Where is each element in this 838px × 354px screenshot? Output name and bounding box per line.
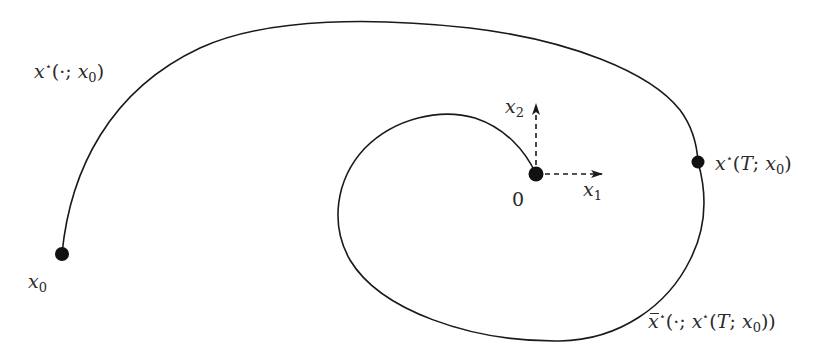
trajectory-diagram: x⋆(·; x0) x0 0 x1 x2 x⋆(T; x0) x⋆(·; x⋆(… (0, 0, 838, 354)
start-point-label: x0 (28, 272, 47, 294)
start-point-dot (55, 247, 69, 261)
x2-axis-label: x2 (505, 97, 524, 119)
continuation-trajectory-label: x⋆(·; x⋆(T; x0)) (648, 311, 776, 334)
diagram-canvas (0, 0, 838, 354)
intermediate-point-label: x⋆(T; x0) (715, 153, 792, 176)
optimal-trajectory-label: x⋆(·; x0) (34, 61, 104, 84)
optimal-trajectory-curve (62, 21, 698, 254)
x1-axis-label: x1 (583, 180, 602, 202)
continuation-trajectory-curve (338, 114, 704, 341)
origin-point-dot (529, 167, 544, 182)
intermediate-point-dot (692, 156, 705, 169)
origin-label: 0 (512, 190, 524, 209)
